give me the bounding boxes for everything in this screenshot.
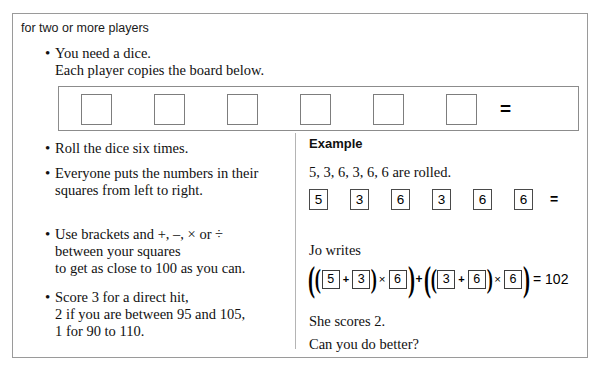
list-item-line: Each player copies the board below. <box>55 62 264 79</box>
list-item-text: Use brackets and +, –, × or ÷ between yo… <box>55 226 245 277</box>
bullet-icon: • <box>45 140 55 157</box>
list-item-line: Everyone puts the numbers in their <box>55 165 258 182</box>
list-item: • Score 3 for a direct hit, 2 if you are… <box>45 289 245 340</box>
list-item-line: Roll the dice six times. <box>55 140 188 157</box>
operator-plus: + <box>456 270 466 289</box>
list-item-line: 1 for 90 to 110. <box>55 323 245 340</box>
list-item-text: You need a dice. Each player copies the … <box>55 45 264 79</box>
expr-digit-box[interactable]: 6 <box>468 270 486 289</box>
digit-box[interactable]: 3 <box>432 189 451 210</box>
list-item-line: 2 if you are between 95 and 105, <box>55 306 245 323</box>
board-square[interactable] <box>81 94 112 125</box>
digit-box[interactable]: 6 <box>391 189 410 210</box>
expression-result: = 102 <box>530 270 568 289</box>
operator-times: × <box>492 270 503 289</box>
she-scores-text: She scores 2. <box>309 313 385 330</box>
example-heading: Example <box>309 136 362 152</box>
board-square[interactable] <box>154 94 185 125</box>
expr-digit-box[interactable]: 5 <box>322 270 340 289</box>
paren-close-inner: ) <box>371 266 377 293</box>
list-item: • Everyone puts the numbers in their squ… <box>45 165 258 199</box>
paren-open-inner: ( <box>430 266 436 293</box>
operator-plus: + <box>341 270 351 289</box>
list-item-line: Score 3 for a direct hit, <box>55 289 245 306</box>
list-item-line: to get as close to 100 as you can. <box>55 260 245 277</box>
paren-open-inner: ( <box>315 266 321 293</box>
paren-close-outer: ) <box>523 264 530 293</box>
operator-times: × <box>377 270 388 289</box>
list-item: • Roll the dice six times. <box>45 140 188 157</box>
board-square[interactable] <box>300 94 331 125</box>
rolled-numbers-text: 5, 3, 6, 3, 6, 6 are rolled. <box>309 164 451 181</box>
list-item-line: Use brackets and +, –, × or ÷ <box>55 226 245 243</box>
paren-close-outer: ) <box>407 264 414 293</box>
board-square[interactable] <box>446 94 477 125</box>
player-board: = <box>58 86 579 131</box>
expr-digit-box[interactable]: 6 <box>504 270 522 289</box>
bullet-icon: • <box>45 45 55 62</box>
expr-digit-box[interactable]: 3 <box>352 270 370 289</box>
activity-card: for two or more players • You need a dic… <box>12 13 588 358</box>
expr-digit-box[interactable]: 6 <box>389 270 407 289</box>
list-item-text: Score 3 for a direct hit, 2 if you are b… <box>55 289 245 340</box>
digit-box[interactable]: 3 <box>350 189 369 210</box>
example-expression: ( ( 5 + 3 ) × 6 ) + ( ( 3 + 6 ) × 6 ) = … <box>308 259 568 299</box>
can-you-do-better-text: Can you do better? <box>309 336 419 353</box>
bullet-icon: • <box>45 289 55 306</box>
rolled-digit-row: 5 3 6 3 6 6 = <box>309 189 569 213</box>
paren-close-inner: ) <box>486 266 492 293</box>
list-item: • You need a dice. Each player copies th… <box>45 45 264 79</box>
digit-box[interactable]: 5 <box>309 189 328 210</box>
digit-box[interactable]: 6 <box>514 189 533 210</box>
equals-sign: = <box>550 190 558 209</box>
list-item-line: between your squares <box>55 243 245 260</box>
column-divider <box>295 133 296 349</box>
board-square[interactable] <box>227 94 258 125</box>
expr-digit-box[interactable]: 3 <box>437 270 455 289</box>
board-square[interactable] <box>373 94 404 125</box>
list-item-text: Everyone puts the numbers in their squar… <box>55 165 258 199</box>
list-item: • Use brackets and +, –, × or ÷ between … <box>45 226 245 277</box>
paren-open-outer: ( <box>424 264 431 293</box>
operator-plus: + <box>415 270 424 289</box>
list-item-line: squares from left to right. <box>55 182 258 199</box>
bullet-icon: • <box>45 165 55 182</box>
digit-box[interactable]: 6 <box>473 189 492 210</box>
list-item-line: You need a dice. <box>55 45 264 62</box>
jo-writes-text: Jo writes <box>309 242 361 259</box>
equals-sign: = <box>500 96 511 122</box>
page-title: for two or more players <box>21 21 149 36</box>
bullet-icon: • <box>45 226 55 243</box>
list-item-text: Roll the dice six times. <box>55 140 188 157</box>
